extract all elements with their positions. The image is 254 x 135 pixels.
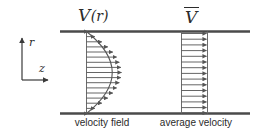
average-velocity-arrows bbox=[182, 34, 207, 114]
average-velocity-symbol-label: V bbox=[185, 7, 198, 26]
script-v-overbar-glyph: V bbox=[185, 7, 198, 26]
axis-label-z: z bbox=[39, 63, 45, 74]
axis-label-r: r bbox=[29, 37, 34, 48]
script-v-glyph: V bbox=[78, 5, 91, 25]
velocity-field-profile bbox=[87, 32, 122, 114]
velocity-field-argument: (r) bbox=[91, 8, 109, 24]
velocity-field-symbol-label: V(r) bbox=[78, 7, 108, 24]
caption-velocity-field: velocity field bbox=[62, 118, 142, 128]
velocity-field-arrows bbox=[87, 32, 122, 114]
figure-root: V(r) V r z velocity field average veloci… bbox=[0, 0, 254, 135]
caption-average-velocity: average velocity bbox=[148, 118, 244, 128]
average-velocity-profile bbox=[182, 32, 208, 114]
